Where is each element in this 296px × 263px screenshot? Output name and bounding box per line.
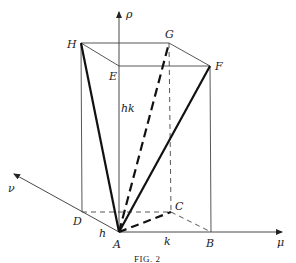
box-dashed-edges	[82, 43, 211, 232]
axis-label-rho: ρ	[125, 8, 133, 21]
diagonal-AC	[119, 212, 171, 232]
figure-caption: FIG. 2	[134, 254, 161, 263]
vertex-label-D: D	[72, 215, 82, 228]
diagonal-AF	[119, 66, 210, 232]
nu-axis	[14, 174, 119, 232]
diagonal-AG	[119, 43, 169, 232]
dimension-label-h: h	[99, 227, 106, 240]
axis-label-nu: ν	[8, 182, 15, 195]
vertex-label-A: A	[112, 238, 121, 251]
figure-2-diagram: ρ μ ν A B C D E F G H h k hk FIG. 2	[0, 0, 296, 263]
vertex-label-C: C	[175, 200, 184, 213]
diagonals	[81, 43, 210, 232]
dimension-label-k: k	[164, 235, 171, 248]
vertex-label-F: F	[214, 60, 223, 73]
vertex-label-G: G	[165, 28, 174, 41]
vertex-label-H: H	[66, 38, 77, 51]
vertex-label-E: E	[108, 70, 117, 83]
dimension-label-hk: hk	[121, 102, 135, 115]
vertex-label-B: B	[205, 237, 214, 250]
axis-label-mu: μ	[277, 236, 284, 249]
